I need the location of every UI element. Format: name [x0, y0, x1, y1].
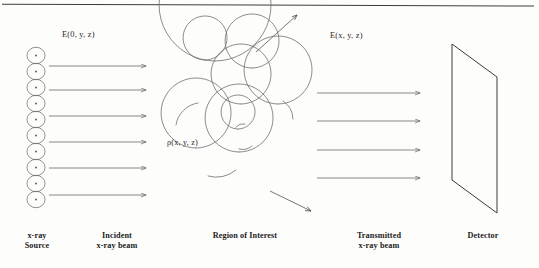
incident-field-label: E(0, y, z) — [62, 30, 95, 39]
scatter-arrow-down — [270, 191, 311, 211]
x-ray-source-icon — [27, 47, 45, 207]
transmitted-beam-arrows — [317, 93, 420, 178]
caption-detector: Detector — [440, 231, 526, 241]
caption-incident-beam: Incident x-ray beam — [69, 231, 165, 251]
density-label: ρ(x, y, z) — [167, 138, 198, 147]
top-rule — [2, 4, 534, 6]
region-of-interest-blob — [159, 0, 312, 177]
figure-canvas: E(0, y, z) E(x, y, z) ρ(x, y, z) x-ray S… — [0, 0, 539, 268]
transmitted-field-label: E(x, y, z) — [330, 31, 363, 40]
caption-region-of-interest: Region of Interest — [175, 231, 315, 241]
detector-panel — [452, 44, 497, 213]
diagram-artwork — [0, 0, 539, 268]
caption-transmitted-beam: Transmitted x-ray beam — [324, 231, 434, 251]
scatter-arrow-up — [256, 15, 297, 52]
scatter-arrows — [256, 15, 311, 211]
incident-beam-arrows — [49, 66, 146, 195]
caption-source: x-ray Source — [6, 231, 68, 251]
